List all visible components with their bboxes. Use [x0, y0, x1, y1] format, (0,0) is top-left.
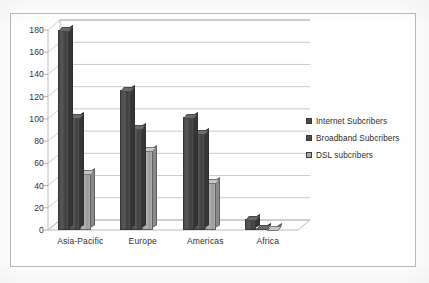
y-axis-tick-label: 120 [29, 92, 44, 102]
bar-europe-series-0 [120, 90, 131, 230]
x-axis-category-label: Africa [256, 236, 279, 246]
y-axis-tick-label: 80 [34, 136, 44, 146]
y-axis-tick-label: 180 [29, 25, 44, 35]
x-axis-labels: Asia-PacificEuropeAmericasAfrica [48, 236, 313, 254]
legend-swatch-icon [306, 152, 312, 158]
y-axis: 020406080100120140160180 [18, 30, 44, 230]
y-axis-tick-label: 100 [29, 114, 44, 124]
legend-item-label: DSL subcribers [316, 151, 373, 160]
x-axis-category-label: Asia-Pacific [57, 236, 103, 246]
bar-front-face [183, 117, 194, 230]
legend-item[interactable]: DSL subcribers [306, 150, 416, 160]
y-axis-tick-label: 20 [34, 203, 44, 213]
x-axis-category-label: Americas [187, 236, 224, 246]
plot-area [48, 30, 298, 230]
y-axis-tick-label: 40 [34, 181, 44, 191]
legend-item[interactable]: Internet Subcribers [306, 116, 416, 126]
bar-front-face [120, 90, 131, 230]
legend-item-label: Broadband Subcribers [316, 134, 399, 143]
chart-legend: Internet SubcribersBroadband SubcribersD… [306, 116, 416, 167]
y-axis-tick-label: 140 [29, 69, 44, 79]
chart-figure: 020406080100120140160180 Asia-PacificEur… [0, 0, 429, 283]
bar-africa-series-2 [267, 229, 278, 230]
legend-item-label: Internet Subcribers [316, 117, 387, 126]
y-axis-tick-label: 60 [34, 158, 44, 168]
bar-africa-series-0 [245, 219, 256, 230]
bar-africa-series-1 [256, 228, 267, 230]
legend-item[interactable]: Broadband Subcribers [306, 133, 416, 143]
y-axis-tick-label: 0 [39, 225, 44, 235]
y-axis-tick-label: 160 [29, 47, 44, 57]
x-axis-category-label: Europe [129, 236, 157, 246]
bar-front-face [58, 30, 69, 230]
bar-americas-series-0 [183, 117, 194, 230]
bar-asia-pacific-series-0 [58, 30, 69, 230]
legend-swatch-icon [306, 118, 312, 124]
legend-swatch-icon [306, 135, 312, 141]
